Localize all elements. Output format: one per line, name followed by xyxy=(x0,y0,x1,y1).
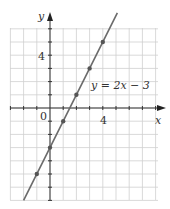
grid-lines xyxy=(10,28,158,200)
coordinate-plane: y x 4 0 4 y = 2x − 3 xyxy=(0,0,170,209)
y-tick-label-4: 4 xyxy=(38,50,45,63)
y-axis-label: y xyxy=(37,10,45,23)
data-point xyxy=(74,93,78,97)
x-tick-label-4: 4 xyxy=(100,114,107,127)
data-point xyxy=(35,172,39,176)
data-point xyxy=(61,119,65,123)
x-axis-label: x xyxy=(155,114,162,127)
x-axis-arrow-icon xyxy=(157,105,166,111)
equation-label: y = 2x − 3 xyxy=(90,79,150,92)
data-point xyxy=(48,145,52,149)
data-point xyxy=(101,40,105,44)
y-axis-arrow-icon xyxy=(47,12,53,21)
x-tick-label-0: 0 xyxy=(40,110,47,123)
data-point xyxy=(87,66,91,70)
axis-ticks xyxy=(10,29,155,201)
